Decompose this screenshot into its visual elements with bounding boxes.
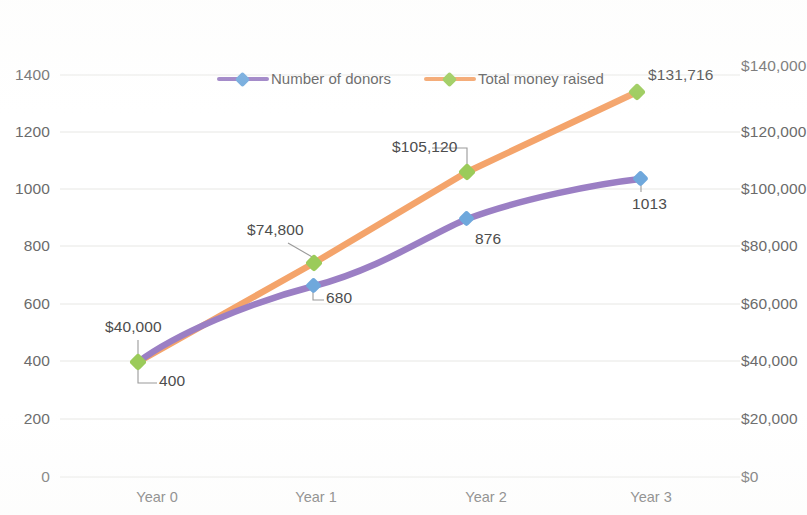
gridlines [60,75,740,477]
right-axis-tick-80000: $80,000 [741,237,798,255]
left-axis-tick-1200: 1200 [0,123,50,141]
left-axis-tick-800: 800 [0,237,50,255]
data-label-donors-year-0: 400 [159,372,185,390]
right-axis-tick-60000: $60,000 [741,295,798,313]
label-leader-lines [138,148,641,383]
data-label-money-year-2: $105,120 [392,138,457,156]
series-number-of-donors [138,179,640,362]
legend-label-money: Total money raised [478,70,604,87]
left-axis-tick-1400: 1400 [0,66,50,84]
data-label-money-year-0: $40,000 [105,318,162,336]
data-label-donors-year-2: 876 [475,230,501,248]
x-axis-tick-year-3: Year 3 [630,489,671,505]
data-label-money-year-1: $74,800 [247,221,304,239]
chart-container: 1400 1200 1000 800 600 400 200 0 $140,00… [0,0,807,515]
right-axis-tick-0: $0 [741,468,758,486]
legend-label-donors: Number of donors [271,70,391,87]
legend-swatch-money [424,73,476,85]
right-axis-tick-100000: $100,000 [741,180,806,198]
x-axis-tick-year-2: Year 2 [465,489,506,505]
right-axis-tick-40000: $40,000 [741,352,798,370]
x-axis-tick-year-1: Year 1 [295,489,336,505]
left-axis-tick-200: 200 [0,410,50,428]
data-label-donors-year-1: 680 [326,289,352,307]
left-axis-tick-600: 600 [0,295,50,313]
right-axis-tick-20000: $20,000 [741,410,798,428]
data-label-donors-year-3: 1013 [632,195,667,213]
left-axis-tick-0: 0 [0,468,50,486]
x-axis-tick-year-0: Year 0 [136,489,177,505]
left-axis-tick-400: 400 [0,352,50,370]
legend-item-number-of-donors[interactable]: Number of donors [217,70,391,87]
right-axis-tick-120000: $120,000 [741,123,806,141]
right-axis-tick-140000: $140,000 [741,57,806,75]
legend-item-total-money-raised[interactable]: Total money raised [424,70,604,87]
legend-swatch-donors [217,73,269,85]
data-label-money-year-3: $131,716 [648,66,713,84]
left-axis-tick-1000: 1000 [0,180,50,198]
